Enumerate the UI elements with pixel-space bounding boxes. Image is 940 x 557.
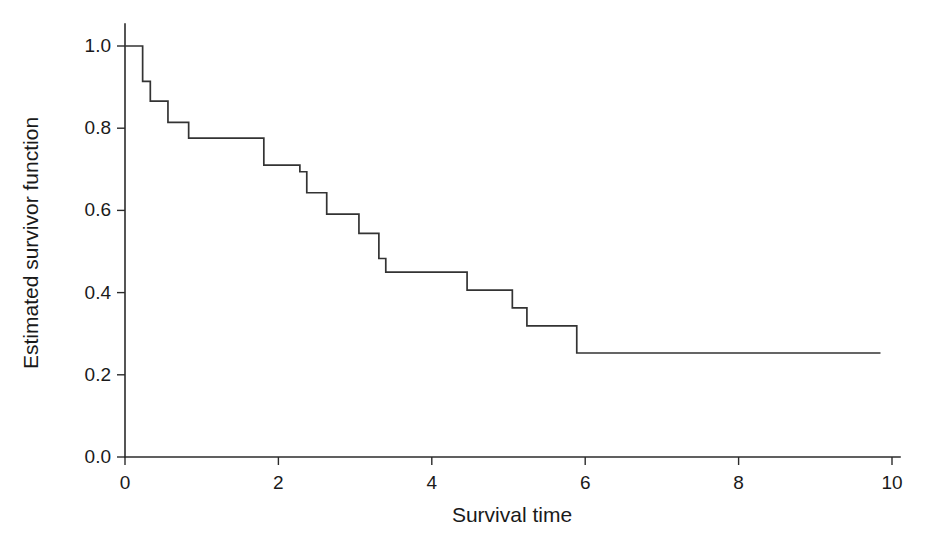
x-tick-label: 0 (120, 472, 131, 493)
y-tick-label: 0.8 (85, 117, 111, 138)
y-tick-label: 1.0 (85, 35, 111, 56)
y-tick-label: 0.6 (85, 199, 111, 220)
figure-container: 0.00.20.40.60.81.0 0246810 Survival time… (0, 0, 940, 557)
x-tick-label: 4 (427, 472, 438, 493)
axes-group (125, 24, 900, 457)
survival-curve-plot: 0.00.20.40.60.81.0 0246810 Survival time… (0, 0, 940, 557)
x-tick-label: 10 (881, 472, 902, 493)
y-tick-label: 0.0 (85, 446, 111, 467)
x-tick-label: 8 (733, 472, 744, 493)
survivor-function-step-line (125, 46, 880, 353)
y-tick-label: 0.2 (85, 364, 111, 385)
x-axis-title: Survival time (452, 503, 572, 526)
x-tick-label: 2 (273, 472, 284, 493)
y-axis-ticks: 0.00.20.40.60.81.0 (85, 35, 125, 467)
y-tick-label: 0.4 (85, 282, 112, 303)
x-axis-ticks: 0246810 (120, 457, 903, 493)
x-tick-label: 6 (580, 472, 591, 493)
y-axis-title: Estimated survivor function (19, 117, 42, 369)
